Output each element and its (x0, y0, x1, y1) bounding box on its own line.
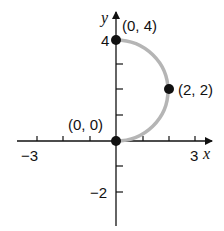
point-0-0 (111, 136, 121, 146)
y-axis-label: y (99, 9, 109, 27)
ytick-label-4: 4 (101, 32, 109, 49)
point-label-origin: (0, 0) (68, 116, 103, 133)
y-ticks (116, 40, 123, 192)
xtick-label-3: 3 (190, 147, 198, 164)
chart: y x −3 3 4 −2 (0, 4) (2, 2) (0, 0) (0, 0, 224, 231)
ytick-label-neg2: −2 (90, 184, 107, 201)
point-0-4 (111, 35, 121, 45)
point-label-right: (2, 2) (178, 81, 213, 98)
point-label-top: (0, 4) (122, 17, 157, 34)
xtick-label-neg3: −3 (21, 147, 38, 164)
plot-svg: y x −3 3 4 −2 (0, 4) (2, 2) (0, 0) (0, 0, 224, 231)
semicircle-curve (116, 40, 168, 141)
point-2-2 (164, 84, 174, 94)
x-axis-label: x (202, 145, 210, 162)
